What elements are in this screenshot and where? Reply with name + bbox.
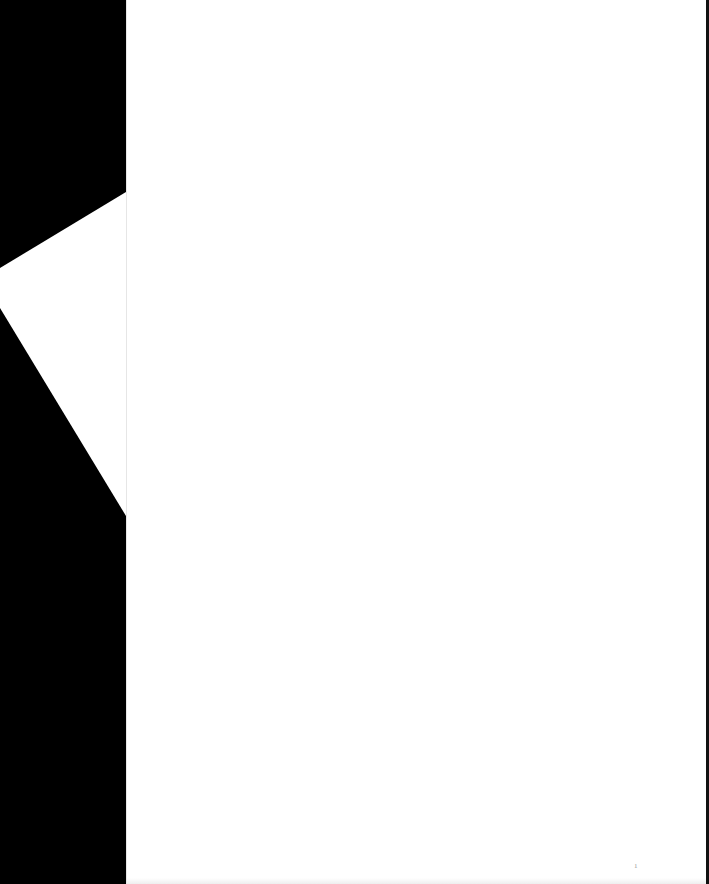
page-number: 1: [634, 862, 638, 870]
document-page: 1: [126, 0, 709, 884]
page-bottom-edge: [127, 878, 709, 884]
